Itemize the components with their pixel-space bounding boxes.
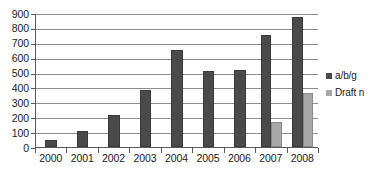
legend-label: a/b/g [335, 70, 357, 81]
bar-draft-n [271, 122, 281, 147]
x-tick-label: 2007 [255, 152, 286, 164]
bar-abg [140, 90, 152, 147]
x-tick-label: 2001 [66, 152, 97, 164]
bar-group [36, 14, 67, 147]
x-tick-mark [318, 148, 319, 153]
x-tick-mark [66, 148, 67, 153]
y-tick-label: 100 [12, 128, 29, 139]
x-tick-mark [129, 148, 130, 153]
x-tick-mark [35, 148, 36, 153]
x-tick-label: 2000 [35, 152, 66, 164]
y-tick-label: 500 [12, 68, 29, 79]
x-tick-mark [192, 148, 193, 153]
y-tick-mark [31, 14, 35, 15]
y-tick-mark [31, 103, 35, 104]
x-tick-mark [224, 148, 225, 153]
bar-abg [77, 131, 89, 147]
y-tick-label: 600 [12, 53, 29, 64]
legend-entry[interactable]: Draft n [326, 86, 376, 99]
x-tick-mark [255, 148, 256, 153]
y-tick-mark [31, 29, 35, 30]
x-tick-label: 2006 [224, 152, 255, 164]
y-tick-label: 0 [23, 143, 29, 154]
bar-group [162, 14, 193, 147]
x-tick-mark [161, 148, 162, 153]
bar-group [130, 14, 161, 147]
bar-group [67, 14, 98, 147]
bar-abg [171, 50, 183, 147]
bar-chart: 0100200300400500600700800900 20002001200… [0, 0, 376, 179]
y-tick-label: 900 [12, 9, 29, 20]
bar-group [256, 14, 287, 147]
legend-entry[interactable]: a/b/g [326, 69, 376, 82]
bar-group [225, 14, 256, 147]
x-tick-mark [287, 148, 288, 153]
legend-swatch-draft-n-icon [326, 90, 332, 96]
y-tick-mark [31, 44, 35, 45]
x-tick-label: 2002 [98, 152, 129, 164]
y-tick-mark [31, 74, 35, 75]
bar-group [288, 14, 319, 147]
bar-abg [45, 140, 57, 147]
y-tick-label: 700 [12, 38, 29, 49]
plot-area [35, 14, 318, 148]
x-tick-label: 2003 [129, 152, 160, 164]
x-tick-label: 2008 [287, 152, 318, 164]
bar-abg [261, 35, 271, 147]
y-tick-label: 400 [12, 83, 29, 94]
y-tick-label: 300 [12, 98, 29, 109]
y-tick-label: 200 [12, 113, 29, 124]
bar-abg [292, 17, 302, 147]
x-tick-mark [98, 148, 99, 153]
x-axis: 200020012002200320042005200620072008 [35, 152, 318, 168]
y-tick-mark [31, 118, 35, 119]
legend-label: Draft n [335, 87, 364, 98]
bar-abg [203, 71, 215, 147]
x-tick-label: 2005 [192, 152, 223, 164]
bar-abg [234, 70, 246, 147]
chart-legend: a/b/gDraft n [326, 69, 376, 103]
x-tick-label: 2004 [161, 152, 192, 164]
bar-draft-n [303, 93, 313, 147]
y-tick-mark [31, 59, 35, 60]
legend-swatch-abg-icon [326, 73, 332, 79]
y-axis: 0100200300400500600700800900 [0, 0, 33, 179]
bar-group [99, 14, 130, 147]
bar-group [193, 14, 224, 147]
y-tick-mark [31, 133, 35, 134]
y-tick-label: 800 [12, 23, 29, 34]
y-tick-mark [31, 88, 35, 89]
bar-abg [108, 115, 120, 147]
